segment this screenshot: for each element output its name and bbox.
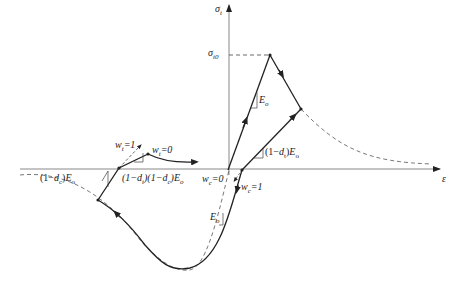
peak-stress-label: σt0 (208, 48, 218, 58)
label-wc1: wc=1 (241, 182, 263, 192)
arrow-compression-up (116, 213, 120, 217)
label-dc-e0: (1−dc)Eo (40, 173, 75, 183)
peak-point (268, 53, 271, 56)
y-axis-label: σt (215, 4, 222, 14)
label-e0-tension: Eo (259, 95, 269, 105)
compression-envelope-dashed (20, 170, 229, 270)
slope-triangle-dc (102, 171, 108, 187)
wt0-point (146, 152, 149, 155)
tension-loading-line (228, 55, 270, 170)
unload-point (299, 107, 302, 110)
arrow-loading (243, 120, 246, 128)
label-wc0: wc=0 (202, 174, 224, 184)
tension-envelope-dashed (301, 109, 432, 164)
label-e0-compression: Eo (210, 212, 220, 222)
label-dt-e0: (1−dt)Eo (265, 147, 299, 157)
crack-close-point (117, 166, 120, 169)
diagram-canvas (0, 0, 460, 293)
arrow-unloading (290, 116, 294, 120)
reloading-curve (148, 154, 195, 162)
tension-softening-line (270, 55, 301, 109)
label-wt1: wt=1 (115, 140, 135, 150)
label-combined-e0: (1−dt)(1−dc)Eo (122, 173, 184, 183)
label-wt0: wt=0 (152, 145, 172, 155)
compression-unload-point (96, 198, 99, 201)
tension-zero-point (240, 168, 243, 171)
x-axis-label: ε (442, 174, 446, 184)
